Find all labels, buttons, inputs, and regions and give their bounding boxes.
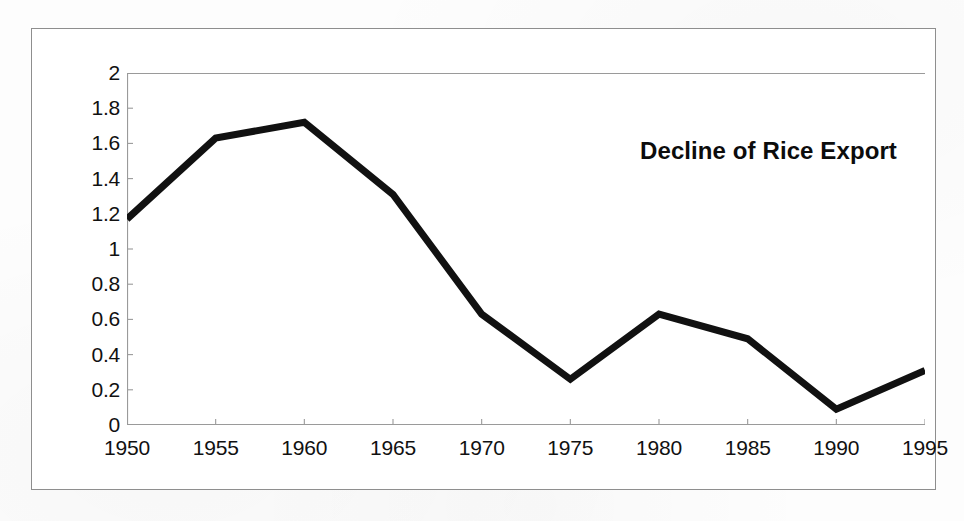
scanned-page: 00.20.40.60.811.21.41.61.82 195019551960… bbox=[0, 0, 964, 521]
x-axis-label-1995: 1995 bbox=[880, 437, 964, 458]
y-axis-label-2: 2 bbox=[68, 62, 120, 83]
plot-area bbox=[127, 73, 925, 425]
figure-outer-frame: 00.20.40.60.811.21.41.61.82 195019551960… bbox=[31, 28, 936, 490]
y-axis-label-0.8: 0.8 bbox=[68, 273, 120, 294]
axis-lines bbox=[127, 73, 925, 425]
y-axis-label-1.6: 1.6 bbox=[68, 132, 120, 153]
y-axis-label-0.6: 0.6 bbox=[68, 308, 120, 329]
x-axis-label-1955: 1955 bbox=[171, 437, 261, 458]
data-series-lines bbox=[127, 122, 925, 409]
y-axis-label-1.8: 1.8 bbox=[68, 97, 120, 118]
chart-title: Decline of Rice Export bbox=[640, 137, 897, 165]
axis-tick-marks bbox=[127, 73, 925, 425]
y-axis-label-1: 1 bbox=[68, 238, 120, 259]
y-axis-label-1.4: 1.4 bbox=[68, 168, 120, 189]
x-axis-label-1975: 1975 bbox=[525, 437, 615, 458]
x-axis-label-1985: 1985 bbox=[703, 437, 793, 458]
x-axis-label-1950: 1950 bbox=[82, 437, 172, 458]
x-axis-tick-labels: 1950195519601965197019751980198519901995 bbox=[127, 437, 925, 471]
x-axis-label-1965: 1965 bbox=[348, 437, 438, 458]
series-line-0 bbox=[127, 122, 925, 409]
y-axis-label-0.4: 0.4 bbox=[68, 344, 120, 365]
y-axis-label-1.2: 1.2 bbox=[68, 203, 120, 224]
x-axis-label-1970: 1970 bbox=[437, 437, 527, 458]
x-axis-label-1960: 1960 bbox=[259, 437, 349, 458]
y-axis-label-0: 0 bbox=[68, 414, 120, 435]
line-chart-svg bbox=[127, 73, 925, 425]
y-axis-tick-labels: 00.20.40.60.811.21.41.61.82 bbox=[60, 73, 120, 425]
x-axis-label-1990: 1990 bbox=[791, 437, 881, 458]
x-axis-label-1980: 1980 bbox=[614, 437, 704, 458]
y-axis-label-0.2: 0.2 bbox=[68, 379, 120, 400]
